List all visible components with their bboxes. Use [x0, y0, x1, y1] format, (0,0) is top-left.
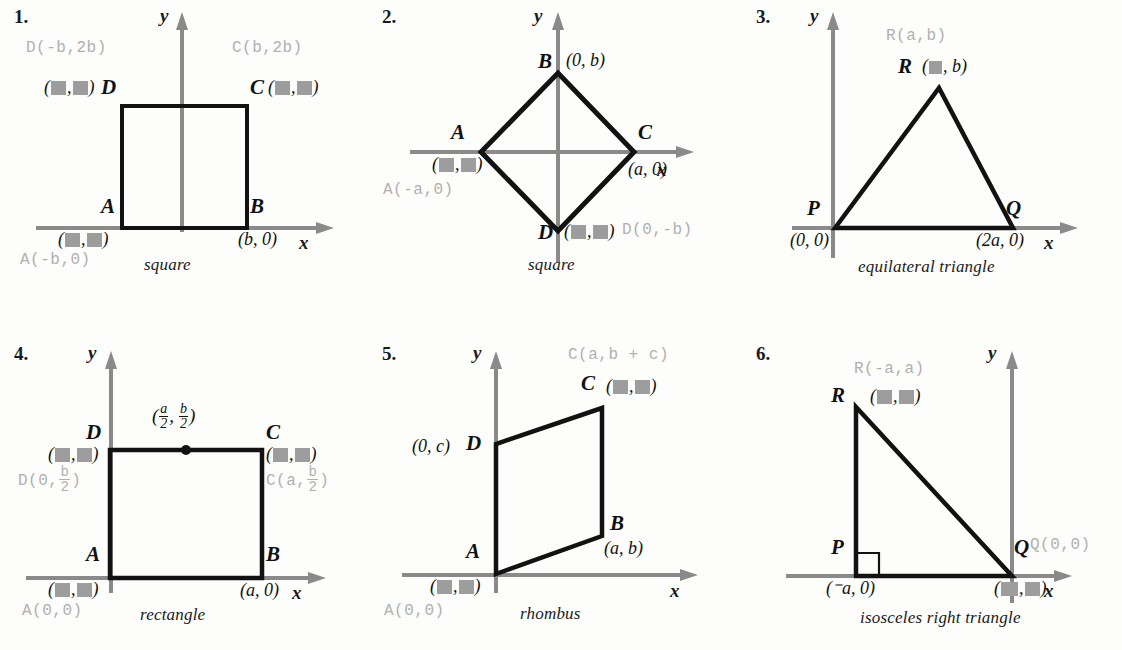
blank-box	[437, 580, 452, 594]
blank-box	[1001, 582, 1018, 596]
vertex-label-d-4: D	[86, 422, 101, 443]
problem-panel-3: 3. y x R(a,b) R P Q (, b) (0, 0) (2a, 0)…	[748, 0, 1122, 325]
coord-blank-a-5[interactable]: (,)	[430, 577, 481, 595]
caption-4: rectangle	[140, 606, 205, 623]
blank-box	[571, 225, 586, 239]
blank-box	[613, 380, 628, 394]
vertex-label-r-3: R	[898, 56, 912, 77]
coord-blank-d-4[interactable]: (,)	[48, 445, 99, 463]
coord-value-p-3: (0, 0)	[790, 231, 829, 249]
midpoint-label-4: (a2, b2)	[152, 403, 195, 433]
coord-blank-a-2[interactable]: (,)	[432, 155, 483, 173]
blank-box	[65, 233, 80, 247]
annotation-c-5: C(a,b + c)	[568, 347, 669, 363]
blank-box	[1025, 582, 1040, 596]
coord-value-b-5: (a, b)	[604, 539, 643, 557]
caption-3: equilateral triangle	[858, 258, 995, 275]
y-axis-label-1: y	[160, 6, 168, 25]
blank-box	[439, 158, 454, 172]
blank-box	[461, 158, 476, 172]
vertex-label-r-6: R	[831, 385, 845, 406]
vertex-label-b-5: B	[610, 513, 624, 534]
vertex-label-a-4: A	[86, 544, 100, 565]
vertex-label-p-6: P	[831, 537, 844, 558]
blank-box	[55, 448, 70, 462]
coord-blank-r-6[interactable]: (,)	[870, 387, 921, 405]
shape-diamond-2	[374, 0, 748, 325]
blank-box	[55, 583, 70, 597]
problem-panel-1: 1. y x D(-b,2b) C(b,2b) A(-b,0) D C A B …	[0, 0, 374, 325]
blank-box	[929, 61, 942, 74]
annotation-q-6: Q(0,0)	[1030, 537, 1091, 553]
blank-box	[899, 390, 914, 404]
problem-panel-6: 6. y x R(-a,a) Q(0,0) R P Q (,) (⁻a, 0) …	[748, 325, 1122, 650]
y-axis-label-6: y	[988, 343, 996, 362]
coord-blank-c-4[interactable]: (,)	[266, 445, 317, 463]
blank-box	[593, 225, 608, 239]
vertex-label-d-1: D	[101, 77, 116, 98]
vertex-label-a-2: A	[451, 122, 465, 143]
annotation-d-4: D(0,b2)	[18, 466, 81, 496]
vertex-label-p-3: P	[807, 198, 820, 219]
y-axis-label-4: y	[88, 343, 96, 362]
x-axis-label-5: x	[670, 581, 680, 600]
coord-blank-d-1[interactable]: (,)	[44, 78, 95, 96]
midpoint-dot	[181, 445, 191, 455]
coord-value-c-2: (a, 0)	[628, 160, 667, 178]
annotation-a-1: A(-b,0)	[20, 252, 91, 268]
vertex-label-c-2: C	[638, 122, 652, 143]
caption-2: square	[528, 256, 575, 273]
annotation-a-2: A(-a,0)	[383, 182, 454, 198]
y-axis-label-2: y	[534, 6, 542, 25]
annotation-c-4: C(a,b2)	[266, 466, 329, 496]
caption-1: square	[144, 256, 191, 273]
vertex-label-a-5: A	[466, 541, 480, 562]
problem-panel-5: 5. y x C(a,b + c) A(0,0) C D B A (,) (0,…	[374, 325, 748, 650]
coord-blank-r-3[interactable]: (, b)	[922, 57, 967, 75]
y-axis-label-5: y	[473, 343, 481, 362]
x-axis-label-3: x	[1044, 233, 1054, 252]
x-axis-label-4: x	[292, 583, 302, 602]
coord-value-p-6: (⁻a, 0)	[826, 579, 875, 597]
coord-blank-c-1[interactable]: (,)	[268, 78, 319, 96]
annotation-a-5: A(0,0)	[384, 603, 445, 619]
vertex-label-c-1: C	[250, 77, 264, 98]
coord-value-b-1: (b, 0)	[238, 230, 277, 248]
blank-box	[87, 233, 102, 247]
coord-value-b-2: (0, b)	[566, 51, 605, 69]
blank-box	[275, 81, 290, 95]
blank-box	[459, 580, 474, 594]
annotation-c-1: C(b,2b)	[232, 40, 303, 56]
x-axis-label-1: x	[299, 233, 309, 252]
vertex-label-d-2: D	[538, 222, 553, 243]
annotation-d-2: D(0,-b)	[622, 222, 693, 238]
coord-blank-q-6[interactable]: (,)	[994, 579, 1047, 597]
coord-blank-c-5[interactable]: (,)	[606, 377, 657, 395]
vertex-label-q-6: Q	[1014, 537, 1029, 558]
vertex-label-b-4: B	[266, 544, 280, 565]
blank-box	[297, 81, 312, 95]
coord-blank-d-2[interactable]: (,)	[564, 222, 615, 240]
coord-value-b-4: (a, 0)	[240, 581, 279, 599]
shape-right-triangle-6	[748, 325, 1122, 650]
vertex-label-q-3: Q	[1006, 198, 1021, 219]
annotation-d-1: D(-b,2b)	[26, 40, 107, 56]
coord-blank-a-4[interactable]: (,)	[48, 580, 99, 598]
caption-6: isosceles right triangle	[860, 609, 1021, 626]
annotation-a-4: A(0,0)	[22, 603, 83, 619]
shape-triangle-3	[748, 0, 1122, 325]
vertex-label-c-5: C	[581, 373, 595, 394]
blank-box	[77, 583, 92, 597]
annotation-r-3: R(a,b)	[886, 28, 947, 44]
blank-box	[295, 448, 310, 462]
y-axis-label-3: y	[810, 6, 818, 25]
problem-panel-2: 2. y x A(-a,0) D(0,-b) A B C D (0, b) (a…	[374, 0, 748, 325]
vertex-label-a-1: A	[101, 196, 115, 217]
worksheet-sheet: 1. y x D(-b,2b) C(b,2b) A(-b,0) D C A B …	[0, 0, 1122, 650]
blank-box	[273, 448, 288, 462]
blank-box	[51, 81, 66, 95]
coord-blank-a-1[interactable]: (,)	[58, 230, 109, 248]
coord-value-d-5: (0, c)	[412, 437, 450, 455]
caption-5: rhombus	[520, 605, 581, 622]
problem-panel-4: 4. y x (a2, b2) D(0,b2) C(a,b2) A(0,0) D…	[0, 325, 374, 650]
